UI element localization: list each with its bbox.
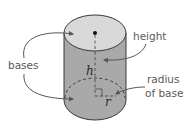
cylinder-diagram: h r height radius of base bases <box>0 0 186 125</box>
bases-label: bases <box>8 59 39 71</box>
radius-label-line1: radius <box>147 73 179 85</box>
height-label: height <box>133 30 166 42</box>
clipped-caption-text <box>0 0 140 3</box>
h-variable: h <box>86 64 94 78</box>
radius-label-line2: of base <box>145 87 184 99</box>
top-center-dot <box>93 31 97 35</box>
